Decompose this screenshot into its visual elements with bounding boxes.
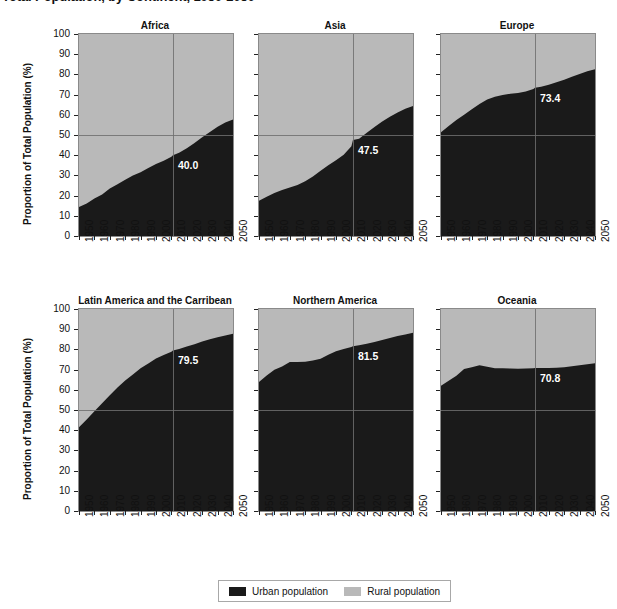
x-tick-mark xyxy=(413,236,414,240)
y-tick-mark xyxy=(74,34,78,35)
x-tick-label: 2050 xyxy=(238,495,249,517)
reference-line-vertical xyxy=(535,309,536,511)
x-tick-label: 2040 xyxy=(403,495,414,517)
y-tick-label: 60 xyxy=(44,110,70,120)
reference-line-horizontal xyxy=(259,135,413,136)
x-tick-label: 1990 xyxy=(146,220,157,242)
x-tick-mark xyxy=(595,511,596,515)
y-tick-mark xyxy=(74,309,78,310)
x-tick-label: 1960 xyxy=(99,495,110,517)
x-tick-label: 1980 xyxy=(130,495,141,517)
chart-legend: Urban population Rural population xyxy=(218,580,451,602)
x-tick-mark xyxy=(171,236,172,240)
y-tick-mark xyxy=(254,349,258,350)
y-tick-label: 50 xyxy=(44,130,70,140)
x-tick-mark xyxy=(141,236,142,240)
reference-line-vertical xyxy=(353,34,354,236)
x-tick-mark xyxy=(518,236,519,240)
y-tick-label: 10 xyxy=(44,211,70,221)
y-tick-mark xyxy=(74,155,78,156)
x-tick-mark xyxy=(472,511,473,515)
y-tick-mark xyxy=(436,471,440,472)
x-tick-mark xyxy=(549,511,550,515)
x-tick-label: 2050 xyxy=(600,220,611,242)
x-tick-label: 1980 xyxy=(492,495,503,517)
y-tick-mark xyxy=(436,236,440,237)
y-tick-mark xyxy=(436,410,440,411)
y-tick-label: 90 xyxy=(44,324,70,334)
y-tick-mark xyxy=(254,74,258,75)
x-tick-mark xyxy=(580,236,581,240)
reference-line-vertical xyxy=(535,34,536,236)
x-tick-mark xyxy=(441,511,442,515)
legend-item-urban[interactable]: Urban population xyxy=(229,586,328,597)
y-tick-mark xyxy=(74,349,78,350)
legend-item-rural[interactable]: Rural population xyxy=(344,586,440,597)
x-tick-mark xyxy=(367,511,368,515)
x-tick-label: 2030 xyxy=(569,495,580,517)
y-tick-mark xyxy=(74,410,78,411)
x-tick-label: 2020 xyxy=(192,220,203,242)
legend-label-urban: Urban population xyxy=(252,586,328,597)
y-tick-mark xyxy=(254,309,258,310)
y-tick-mark xyxy=(254,115,258,116)
y-tick-mark xyxy=(74,236,78,237)
x-tick-mark xyxy=(487,511,488,515)
y-tick-mark xyxy=(254,410,258,411)
x-tick-mark xyxy=(503,511,504,515)
x-tick-label: 2020 xyxy=(192,495,203,517)
y-tick-mark xyxy=(436,95,440,96)
reference-line-vertical xyxy=(173,309,174,511)
x-tick-label: 2010 xyxy=(356,220,367,242)
y-tick-mark xyxy=(74,54,78,55)
x-tick-mark xyxy=(367,236,368,240)
x-tick-label: 1950 xyxy=(446,495,457,517)
reference-line-vertical xyxy=(173,34,174,236)
x-tick-label: 1970 xyxy=(477,220,488,242)
legend-swatch-urban xyxy=(229,587,246,596)
panel-title: Africa xyxy=(78,20,232,33)
x-tick-label: 1990 xyxy=(146,495,157,517)
y-tick-mark xyxy=(254,155,258,156)
x-tick-label: 1950 xyxy=(446,220,457,242)
x-tick-label: 1980 xyxy=(130,220,141,242)
x-tick-mark xyxy=(580,511,581,515)
legend-label-rural: Rural population xyxy=(367,586,440,597)
plot-area: 47.5 xyxy=(258,33,414,237)
x-tick-mark xyxy=(110,236,111,240)
x-tick-label: 2040 xyxy=(403,220,414,242)
reference-line-horizontal xyxy=(79,135,233,136)
x-tick-label: 2040 xyxy=(585,220,596,242)
x-tick-mark xyxy=(456,511,457,515)
x-tick-mark xyxy=(382,236,383,240)
y-tick-mark xyxy=(436,54,440,55)
panel-europe: Europe73.4 xyxy=(440,20,594,235)
x-tick-label: 2000 xyxy=(341,220,352,242)
x-tick-mark xyxy=(187,236,188,240)
y-tick-mark xyxy=(74,329,78,330)
chart-figure: Total Population, by Continent, 1950-205… xyxy=(0,0,617,609)
value-label: 73.4 xyxy=(540,92,560,104)
y-tick-label: 90 xyxy=(44,49,70,59)
y-tick-mark xyxy=(436,370,440,371)
x-tick-label: 1990 xyxy=(326,220,337,242)
value-label: 81.5 xyxy=(358,350,378,362)
y-tick-mark xyxy=(254,236,258,237)
x-tick-mark xyxy=(336,236,337,240)
panel-title: Oceania xyxy=(440,295,594,308)
y-tick-mark xyxy=(254,511,258,512)
panel-title: Asia xyxy=(258,20,412,33)
y-tick-mark xyxy=(74,370,78,371)
x-tick-label: 2000 xyxy=(161,220,172,242)
x-tick-mark xyxy=(156,236,157,240)
y-tick-mark xyxy=(254,34,258,35)
x-tick-label: 2050 xyxy=(418,220,429,242)
x-tick-mark xyxy=(518,511,519,515)
x-tick-label: 1990 xyxy=(508,220,519,242)
x-tick-label: 2010 xyxy=(538,220,549,242)
x-tick-label: 1950 xyxy=(84,220,95,242)
y-tick-mark xyxy=(436,309,440,310)
x-tick-mark xyxy=(125,236,126,240)
x-tick-mark xyxy=(259,511,260,515)
x-tick-mark xyxy=(218,511,219,515)
